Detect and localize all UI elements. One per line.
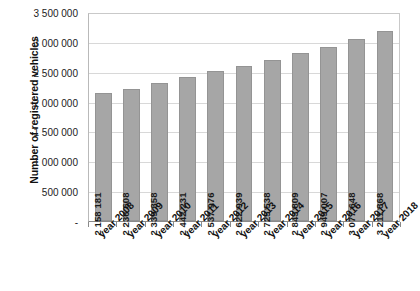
bar-slot: 3 211 368 [371,14,399,221]
y-axis-tick-label: - [6,217,78,228]
bar[interactable]: 2 339 358 [151,83,168,221]
plot-area: 2 158 1812 236 6082 339 3582 442 2312 53… [88,13,400,222]
bar-slot: 2 158 181 [89,14,117,221]
bar[interactable]: 2 158 181 [95,93,112,221]
y-axis-tick-label: 2 000 000 [6,97,78,108]
x-axis-tick [88,222,89,227]
bar[interactable]: 2 622 939 [236,66,253,221]
bar-slot: 3 077 648 [343,14,371,221]
y-axis-tick-labels: 3 500 0003 000 0002 500 0002 000 0001 50… [0,0,78,291]
bar-slot: 2 622 939 [230,14,258,221]
y-axis-tick-label: 500 000 [6,187,78,198]
bar-slot: 2 843 809 [286,14,314,221]
x-axis-tick-labels: year 2008year 2009year 2010year 2011year… [88,228,400,288]
bar[interactable]: 3 211 368 [377,31,394,221]
y-axis-tick-label: 2 500 000 [6,67,78,78]
bar-slot: 2 537 976 [202,14,230,221]
bar[interactable]: 2 843 809 [292,53,309,221]
bar-slot: 2 339 358 [145,14,173,221]
y-axis-tick-label: 3 000 000 [6,37,78,48]
bar[interactable]: 2 537 976 [207,71,224,221]
y-axis-tick-label: 3 500 000 [6,8,78,19]
bar[interactable]: 2 725 538 [264,60,281,221]
bar-series: 2 158 1812 236 6082 339 3582 442 2312 53… [89,14,399,221]
bar-slot: 2 236 608 [117,14,145,221]
y-axis-tick-label: 1 000 000 [6,157,78,168]
bar[interactable]: 2 442 231 [179,77,196,221]
bar-slot: 2 725 538 [258,14,286,221]
bar[interactable]: 3 077 648 [348,39,365,221]
y-axis-tick-label: 1 500 000 [6,127,78,138]
bar[interactable]: 2 949 007 [320,47,337,221]
bar-slot: 2 949 007 [315,14,343,221]
bar-slot: 2 442 231 [174,14,202,221]
